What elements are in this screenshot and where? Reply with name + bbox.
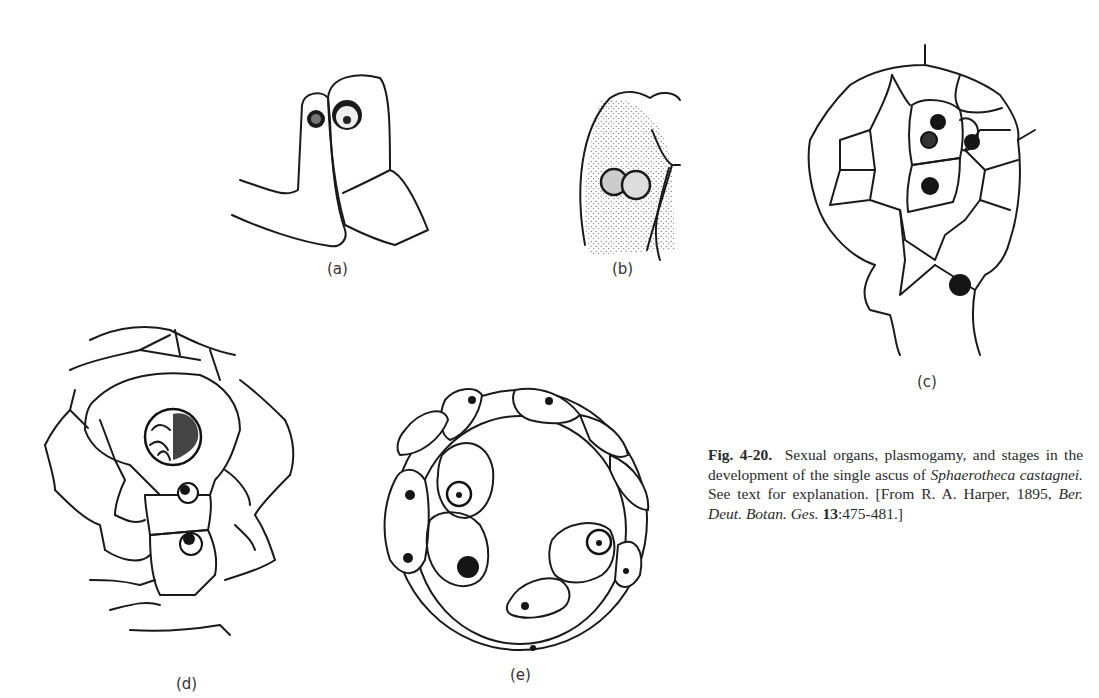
caption-after-species: See text for explanation. [From R. A. Ha… bbox=[708, 485, 1058, 502]
mature-ascus-drawing bbox=[370, 370, 670, 698]
panel-label-e: (e) bbox=[510, 666, 531, 684]
figure-caption: Fig. 4-20. Sexual organs, plasmogamy, an… bbox=[708, 445, 1083, 523]
figure-number: Fig. 4-20. bbox=[708, 446, 772, 463]
journal-pages: :475-481.] bbox=[838, 505, 903, 522]
panel-e: (e) bbox=[370, 370, 670, 698]
panel-c: (c) bbox=[720, 30, 1040, 400]
panel-label-a: (a) bbox=[327, 260, 348, 278]
panel-a: (a) bbox=[230, 60, 450, 310]
panel-b: (b) bbox=[500, 60, 680, 310]
plasmogamy-drawing bbox=[500, 60, 680, 310]
species-name: Sphaerotheca castagnei. bbox=[931, 466, 1083, 483]
ascus-sheath-drawing bbox=[30, 310, 350, 698]
panel-label-d: (d) bbox=[176, 675, 197, 693]
panel-label-b: (b) bbox=[612, 260, 633, 278]
journal-volume: 13 bbox=[823, 505, 839, 522]
panel-label-c: (c) bbox=[917, 373, 937, 391]
panel-d: (d) bbox=[30, 310, 350, 698]
young-fruiting-body-drawing bbox=[720, 30, 1040, 400]
